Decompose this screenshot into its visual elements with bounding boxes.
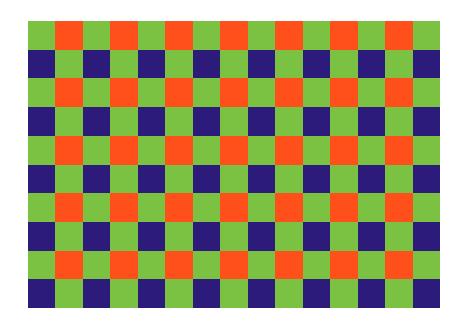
- grid-cell: [138, 107, 165, 136]
- grid-cell: [28, 136, 55, 165]
- grid-cell: [110, 165, 137, 194]
- grid-cell: [220, 251, 247, 280]
- grid-cell: [110, 107, 137, 136]
- grid-cell: [28, 107, 55, 136]
- grid-cell: [138, 50, 165, 79]
- grid-cell: [138, 78, 165, 107]
- grid-cell: [83, 165, 110, 194]
- grid-cell: [28, 50, 55, 79]
- grid-cell: [55, 136, 82, 165]
- grid-cell: [248, 222, 275, 251]
- grid-cell: [138, 222, 165, 251]
- grid-cell: [413, 21, 440, 50]
- grid-cell: [28, 251, 55, 280]
- grid-cell: [138, 193, 165, 222]
- grid-cell: [413, 50, 440, 79]
- grid-cell: [275, 50, 302, 79]
- grid-cell: [330, 136, 357, 165]
- grid-cell: [385, 50, 412, 79]
- grid-cell: [55, 21, 82, 50]
- grid-cell: [193, 21, 220, 50]
- grid-cell: [83, 50, 110, 79]
- grid-cell: [28, 222, 55, 251]
- grid-cell: [303, 136, 330, 165]
- grid-cell: [303, 251, 330, 280]
- grid-cell: [275, 136, 302, 165]
- grid-cell: [193, 222, 220, 251]
- grid-cell: [83, 251, 110, 280]
- grid-cell: [110, 279, 137, 308]
- grid-cell: [138, 21, 165, 50]
- grid-cell: [303, 222, 330, 251]
- grid-cell: [303, 165, 330, 194]
- grid-cell: [83, 78, 110, 107]
- grid-cell: [83, 279, 110, 308]
- grid-cell: [413, 136, 440, 165]
- grid-cell: [330, 50, 357, 79]
- grid-cell: [275, 193, 302, 222]
- grid-cell: [220, 50, 247, 79]
- grid-cell: [165, 78, 192, 107]
- grid-cell: [413, 279, 440, 308]
- grid-cell: [220, 222, 247, 251]
- grid-cell: [138, 251, 165, 280]
- grid-cell: [413, 165, 440, 194]
- grid-cell: [83, 193, 110, 222]
- grid-cell: [275, 279, 302, 308]
- grid-cell: [385, 107, 412, 136]
- grid-cell: [330, 21, 357, 50]
- grid-cell: [385, 136, 412, 165]
- grid-cell: [83, 136, 110, 165]
- grid-cell: [193, 279, 220, 308]
- grid-cell: [330, 107, 357, 136]
- grid-cell: [83, 107, 110, 136]
- grid-cell: [358, 50, 385, 79]
- grid-cell: [358, 21, 385, 50]
- grid-cell: [385, 279, 412, 308]
- grid-cell: [275, 21, 302, 50]
- grid-cell: [83, 222, 110, 251]
- grid-cell: [303, 193, 330, 222]
- grid-cell: [165, 193, 192, 222]
- grid-cell: [330, 279, 357, 308]
- grid-cell: [248, 50, 275, 79]
- grid-cell: [358, 78, 385, 107]
- grid-cell: [358, 107, 385, 136]
- grid-cell: [385, 78, 412, 107]
- grid-cell: [248, 107, 275, 136]
- grid-cell: [220, 107, 247, 136]
- grid-cell: [193, 193, 220, 222]
- grid-cell: [110, 21, 137, 50]
- grid-cell: [55, 193, 82, 222]
- grid-cell: [55, 50, 82, 79]
- grid-cell: [55, 78, 82, 107]
- grid-cell: [28, 78, 55, 107]
- grid-cell: [358, 193, 385, 222]
- grid-cell: [220, 279, 247, 308]
- grid-cell: [330, 193, 357, 222]
- grid-cell: [303, 50, 330, 79]
- grid-cell: [28, 193, 55, 222]
- grid-cell: [165, 50, 192, 79]
- grid-cell: [248, 165, 275, 194]
- grid-cell: [358, 251, 385, 280]
- grid-cell: [385, 193, 412, 222]
- grid-cell: [358, 222, 385, 251]
- grid-cell: [248, 21, 275, 50]
- grid-cell: [275, 78, 302, 107]
- grid-cell: [193, 78, 220, 107]
- grid-cell: [165, 251, 192, 280]
- grid-cell: [275, 222, 302, 251]
- grid-cell: [165, 165, 192, 194]
- grid-cell: [303, 279, 330, 308]
- grid-cell: [413, 78, 440, 107]
- grid-cell: [330, 222, 357, 251]
- grid-cell: [248, 78, 275, 107]
- grid-cell: [55, 107, 82, 136]
- grid-cell: [110, 222, 137, 251]
- grid-cell: [220, 193, 247, 222]
- grid-cell: [275, 165, 302, 194]
- grid-cell: [55, 222, 82, 251]
- grid-cell: [303, 21, 330, 50]
- grid-cell: [385, 21, 412, 50]
